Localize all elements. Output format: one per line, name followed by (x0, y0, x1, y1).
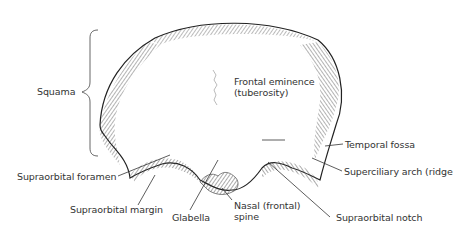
label-supraorbital-foramen: Supraorbital foramen (17, 171, 116, 182)
label-supraorbital-margin: Supraorbital margin (70, 204, 163, 215)
label-glabella: Glabella (172, 212, 210, 223)
right-orbit-shading (262, 161, 318, 188)
label-temporal-fossa: Temporal fossa (345, 139, 415, 150)
label-nasal-spine: Nasal (frontal) (234, 200, 300, 211)
frontal-eminence-marks (213, 70, 217, 105)
left-orbit-shading (130, 158, 200, 182)
label-supraorbital-notch: Supraorbital notch (336, 212, 422, 223)
squama-top-shading (150, 25, 318, 46)
frontal-bone-illustration (0, 0, 464, 235)
label-frontal-eminence-sub: (tuberosity) (234, 87, 288, 98)
label-superciliary-arch: Superciliary arch (ridge (344, 166, 453, 177)
label-nasal-spine-sub: spine (234, 211, 259, 222)
squama-left-shading (100, 42, 160, 165)
squama-bracket (82, 30, 98, 156)
nasal-spine-shape (200, 172, 238, 194)
label-frontal-eminence: Frontal eminence (234, 76, 315, 87)
label-squama: Squama (37, 86, 75, 97)
